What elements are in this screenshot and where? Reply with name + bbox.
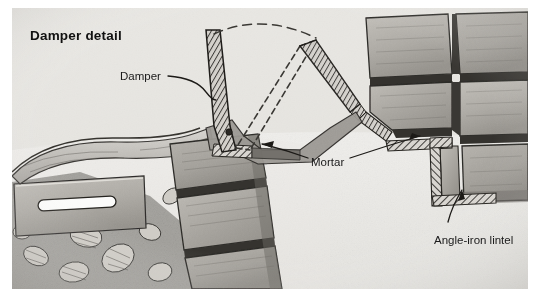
- illustration-plate: Damper detail Damper Mortar Angle-iron l…: [12, 8, 528, 289]
- vignette: [12, 8, 528, 289]
- damper-detail-figure: Damper detail Damper Mortar Angle-iron l…: [0, 0, 540, 303]
- illustration-canvas: Damper detail Damper Mortar Angle-iron l…: [0, 0, 540, 303]
- label-angle-iron-lintel: Angle-iron lintel: [434, 234, 513, 246]
- label-damper: Damper: [120, 70, 161, 82]
- figure-title: Damper detail: [30, 28, 122, 43]
- label-mortar: Mortar: [311, 156, 344, 168]
